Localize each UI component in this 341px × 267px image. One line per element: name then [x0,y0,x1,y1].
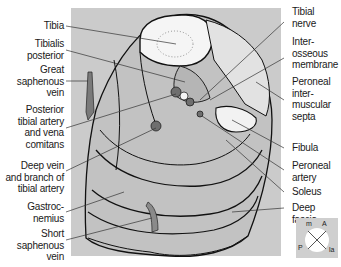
compass-medial: m [306,220,312,227]
compass-posterior: P [298,244,303,251]
compass-anterior: A [322,220,327,227]
label-peroneal-intermuscular-septa: Peroneal inter- muscular septa [292,76,331,122]
compass-lateral: la [329,246,334,253]
label-tibia: Tibia [44,20,64,32]
posterior-tibial-vessel-3 [186,98,194,106]
label-fibula: Fibula [292,142,318,154]
label-short-saphenous-vein: Short saphenous vein [17,228,64,263]
label-interosseous-membrane: Inter- osseous membrane [292,36,338,71]
label-posterior-tibial-artery: Posterior tibial artery and vena comitan… [18,104,64,150]
posterior-tibial-vessel-2 [180,92,188,100]
posterior-tibial-vessel-1 [171,87,181,97]
tibia-bone [140,15,213,66]
label-tibial-nerve: Tibial nerve [292,6,316,29]
label-tibialis-posterior: Tibialis posterior [27,38,64,61]
label-deep-vein-branch: Deep vein and branch of tibial artery [5,160,64,195]
label-gastrocnemius: Gastroc- nemius [27,201,64,224]
orientation-compass: m A P la [296,218,338,258]
label-soleus: Soleus [292,186,321,198]
label-great-saphenous-vein: Great saphenous vein [17,64,64,99]
label-peroneal-artery: Peroneal artery [292,160,330,183]
